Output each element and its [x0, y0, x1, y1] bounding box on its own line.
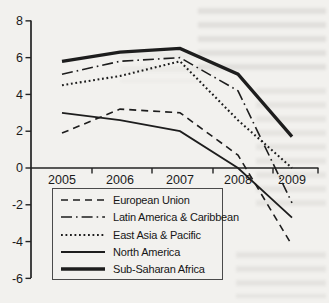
legend-line-sample-east-asia-pacific	[60, 229, 106, 241]
legend-line-sample-north-america	[60, 246, 106, 258]
legend-label: North America	[113, 246, 180, 258]
legend-item: North America	[60, 244, 222, 260]
legend-label: Sub-Saharan Africa	[113, 263, 205, 275]
y-tick-label: 2	[16, 124, 23, 138]
legend-item: East Asia & Pacific	[60, 227, 222, 243]
y-tick-label: 8	[16, 14, 23, 28]
x-tick-label: 2008	[224, 173, 252, 187]
legend-item: European Union	[60, 192, 222, 208]
y-tick-label: 6	[16, 51, 23, 65]
legend: European Union Latin America & Caribbean…	[52, 188, 223, 280]
legend-label: European Union	[113, 194, 190, 206]
legend-item: Latin America & Caribbean	[60, 209, 222, 225]
x-tick-label: 2007	[166, 173, 194, 187]
scanned-page: 86420-2-4-620052006200720082009 European…	[0, 0, 329, 303]
x-tick-label: 2006	[106, 173, 134, 187]
y-tick-label: -2	[12, 198, 23, 212]
legend-label: Latin America & Caribbean	[113, 211, 239, 223]
x-tick-label: 2005	[48, 173, 76, 187]
y-tick-label: 0	[16, 161, 23, 175]
legend-line-sample-latin-america-caribbean	[60, 211, 106, 223]
y-tick-label: 4	[16, 88, 23, 102]
legend-item: Sub-Saharan Africa	[60, 261, 222, 277]
y-tick-label: -6	[12, 272, 23, 286]
series-line-east-asia-pacific	[62, 61, 292, 168]
y-tick-label: -4	[12, 235, 23, 249]
legend-line-sample-european-union	[60, 194, 106, 206]
legend-label: East Asia & Pacific	[113, 229, 201, 241]
legend-line-sample-sub-saharan-africa	[60, 263, 106, 275]
